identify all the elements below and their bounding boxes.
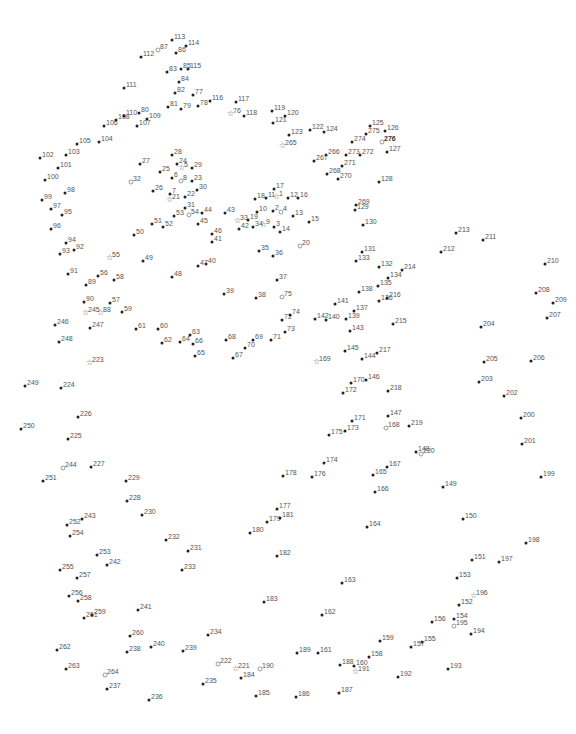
dot-number-label: 234 (210, 628, 222, 635)
dot-number-label: 3 (276, 220, 280, 227)
dot-number-label: 31 (187, 201, 195, 208)
dot-number-label: 90 (86, 295, 94, 302)
dot-number-label: 233 (184, 563, 196, 570)
dot-number-label: 98 (67, 186, 75, 193)
dot-number-label: 237 (109, 682, 121, 689)
dot-number-label: 272 (362, 148, 374, 155)
dot-number-label: 180 (252, 526, 264, 533)
dot-number-label: 149 (445, 480, 457, 487)
dot-number-label: 96 (53, 222, 61, 229)
dot-number-label: 131 (364, 245, 376, 252)
dot-number-label: 10 (259, 205, 267, 212)
dot-number-label: 55 (112, 251, 120, 258)
dot-number-label: 195 (456, 619, 468, 626)
dot-number-label: 263 (68, 662, 80, 669)
dot-number-label: 178 (285, 469, 297, 476)
dot-number-label: 22 (187, 190, 195, 197)
dot-number-label: 56 (100, 269, 108, 276)
dot-number-label: 137 (356, 304, 368, 311)
dot-number-label: 185 (258, 689, 270, 696)
dot-number-label: 11 (268, 191, 275, 198)
dot-number-label: 251 (45, 474, 57, 481)
dot-number-label: 230 (144, 508, 156, 515)
dot-number-label: 134 (390, 271, 402, 278)
dot-number-label: 196 (476, 589, 488, 596)
dot-number-label: 62 (164, 336, 172, 343)
dot-number-label: 16 (300, 191, 308, 198)
dot-number-label: 76 (233, 107, 241, 114)
dot-number-label: 112 (143, 50, 154, 57)
dot-number-label: 254 (72, 529, 84, 536)
dot-number-label: 267 (316, 154, 328, 161)
dot-number-label: 21 (172, 193, 180, 200)
dot-number-label: 123 (291, 128, 303, 135)
dot-number-label: 226 (80, 410, 92, 417)
dot-number-label: 211 (485, 233, 496, 240)
dot-number-label: 157 (413, 640, 425, 647)
dot-number-label: 217 (379, 346, 391, 353)
dot-number-label: 275 (368, 127, 380, 134)
dot-number-label: 58 (116, 273, 124, 280)
dot-number-label: 262 (59, 643, 71, 650)
dot-number-label: 99 (44, 193, 52, 200)
dot-number-label: 146 (368, 373, 380, 380)
dot-number-label: 141 (337, 297, 349, 304)
dot-number-label: 170 (353, 376, 365, 383)
dot-number-label: 210 (547, 257, 559, 264)
dot-number-label: 46 (214, 227, 222, 234)
dot-number-label: 176 (314, 470, 326, 477)
dot-number-label: 26 (155, 184, 163, 191)
dot-number-label: 162 (324, 608, 336, 615)
dot-number-label: 207 (549, 311, 561, 318)
dot-number-label: 97 (53, 202, 61, 209)
dot-number-label: 135 (380, 279, 392, 286)
dot-number-label: 266 (328, 148, 340, 155)
dot-number-label: 191 (358, 665, 370, 672)
dot-number-label: 127 (389, 145, 401, 152)
dot-number-label: 18 (257, 192, 265, 199)
dot-number-label: 88 (103, 306, 111, 313)
dot-number-label: 177 (279, 502, 291, 509)
dot-number-label: 54 (191, 208, 199, 215)
dot-number-label: 151 (474, 553, 486, 560)
dot-number-label: 75 (284, 290, 292, 297)
dot-number-label: 124 (326, 125, 338, 132)
dot-number-label: 6 (174, 171, 178, 178)
dot-number-label: 36 (275, 249, 283, 256)
dot-number-label: 80 (141, 106, 149, 113)
dot-number-label: 182 (279, 549, 291, 556)
dot-number-label: 104 (101, 135, 113, 142)
dot-number-label: 35 (261, 244, 269, 251)
dot-number-label: 225 (70, 432, 82, 439)
dot-number-label: 188 (342, 658, 354, 665)
dot-number-label: 140 (328, 313, 340, 320)
dot-number-label: 232 (168, 533, 180, 540)
dot-number-label: 42 (241, 222, 249, 229)
dot-number-label: 252 (69, 518, 81, 525)
dot-number-label: 101 (60, 161, 72, 168)
dot-number-label: 121 (275, 116, 287, 123)
dot-number-label: 66 (195, 337, 203, 344)
dot-number-label: 83 (169, 65, 177, 72)
dot-number-label: 87 (160, 43, 168, 50)
dot-number-label: 139 (348, 312, 360, 319)
dot-number-label: 198 (528, 536, 540, 543)
dot-number-label: 14 (282, 225, 290, 232)
dot-number-label: 238 (129, 645, 141, 652)
dot-number-label: 33 (240, 214, 248, 221)
dot-number-label: 103 (68, 148, 80, 155)
dot-number-label: 125 (372, 119, 384, 126)
dot-number-label: 20 (302, 239, 310, 246)
dot-number-label: 260 (132, 629, 144, 636)
dot-number-label: 218 (390, 384, 402, 391)
dot-number-label: 91 (70, 267, 78, 274)
dot-number-label: 70 (247, 341, 255, 348)
dot-number-label: 173 (347, 424, 359, 431)
dot-number-label: 164 (369, 520, 381, 527)
dot-number-label: 258 (80, 594, 92, 601)
dot-number-label: 67 (235, 351, 243, 358)
dot-number-label: 64 (182, 335, 190, 342)
dot-number-label: 274 (354, 135, 366, 142)
dot-number-label: 154 (456, 612, 468, 619)
dot-number-label: 59 (124, 305, 132, 312)
